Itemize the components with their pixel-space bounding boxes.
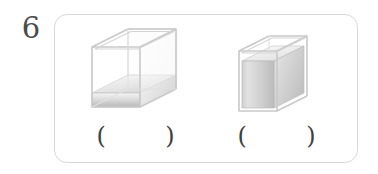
- answer-input-blank[interactable]: [247, 126, 306, 146]
- left-parenthesis: (: [97, 123, 106, 149]
- worksheet-question: 6: [0, 0, 378, 174]
- tank-right-water: [242, 46, 304, 108]
- open-rectangular-tank-lying-low-water-icon: [84, 25, 188, 117]
- tank-left-figure: [84, 25, 188, 117]
- right-parenthesis: ): [165, 123, 174, 149]
- question-card: ( ): [54, 14, 358, 163]
- tank-right-answer[interactable]: ( ): [234, 123, 320, 149]
- question-number: 6: [14, 10, 48, 46]
- item-tank-left: ( ): [70, 23, 202, 156]
- open-rectangular-tank-upright-high-water-icon: [225, 25, 329, 117]
- tank-right-figure: [225, 25, 329, 117]
- answer-input-blank[interactable]: [106, 126, 165, 146]
- figure-row: ( ): [55, 15, 357, 162]
- right-parenthesis: ): [306, 123, 315, 149]
- tank-left-answer[interactable]: ( ): [93, 123, 179, 149]
- left-parenthesis: (: [238, 123, 247, 149]
- item-tank-right: ( ): [211, 23, 343, 156]
